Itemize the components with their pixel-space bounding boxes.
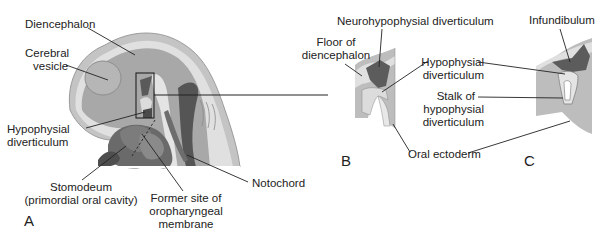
panel-c-illustration	[536, 38, 592, 134]
label-floor-of-diencephalon-line2: diencephalon	[300, 49, 372, 62]
figure-stage: Diencephalon Cerebral vesicle Hypophysia…	[0, 0, 611, 237]
label-hypophysial-diverticulum-a-line2: diverticulum	[7, 136, 68, 149]
label-neurohypophysial-diverticulum: Neurohypophysial diverticulum	[337, 15, 494, 28]
label-cerebral-vesicle-line1: Cerebral	[25, 47, 69, 60]
label-stomodeum-line1: Stomodeum	[26, 181, 136, 194]
label-former-site-line3: membrane	[148, 218, 224, 231]
label-stalk-line1: Stalk of	[400, 90, 475, 103]
panel-letter-b: B	[341, 152, 351, 169]
label-stalk-line3: diverticulum	[400, 116, 484, 129]
panel-letter-c: C	[524, 152, 535, 169]
panel-letter-a: A	[24, 212, 34, 229]
label-hypophysial-diverticulum-b-line1: Hypophysial	[400, 56, 484, 69]
label-hypophysial-diverticulum-b-line2: diverticulum	[400, 69, 484, 82]
label-notochord: Notochord	[252, 177, 305, 190]
label-former-site-line1: Former site of	[148, 192, 224, 205]
label-cerebral-vesicle-line2: vesicle	[33, 60, 68, 73]
label-hypophysial-diverticulum-a-line1: Hypophysial	[7, 123, 70, 136]
label-former-site-line2: oropharyngeal	[148, 205, 224, 218]
panel-a-illustration	[69, 33, 328, 169]
label-oral-ectoderm: Oral ectoderm	[408, 148, 481, 161]
label-infundibulum: Infundibulum	[529, 14, 595, 27]
label-diencephalon: Diencephalon	[25, 18, 95, 31]
label-floor-of-diencephalon-line1: Floor of	[300, 36, 372, 49]
label-stalk-line2: hypophysial	[400, 103, 484, 116]
label-stomodeum-line2: (primordial oral cavity)	[20, 194, 142, 207]
